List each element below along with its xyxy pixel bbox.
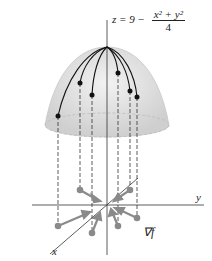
x-axis-label: x xyxy=(52,246,57,257)
gradient-arrows xyxy=(56,188,139,235)
paraboloid-figure: z = 9 − x² + y² 4 y x ∇f xyxy=(0,0,212,261)
y-axis-label: y xyxy=(196,192,201,203)
equation-numerator: x² + y² xyxy=(152,8,185,21)
equation-denominator: 4 xyxy=(152,21,185,33)
diagram-canvas xyxy=(0,0,212,261)
equation-lhs: z = 9 − xyxy=(112,13,145,25)
equation-label: z = 9 − x² + y² 4 xyxy=(112,8,185,33)
x-axis xyxy=(50,178,138,254)
gradient-label: ∇f xyxy=(143,226,154,238)
equation-fraction: x² + y² 4 xyxy=(152,8,185,33)
